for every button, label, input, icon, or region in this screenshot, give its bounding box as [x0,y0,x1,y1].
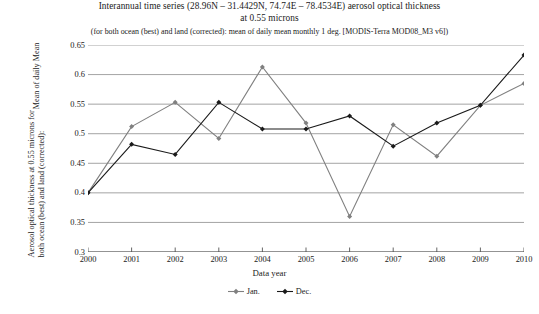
x-axis-tick-label: 2004 [254,255,271,265]
y-axis-title-line-2: both ocean (best) and land (corrected): [37,110,47,257]
chart-subtitle: (for both ocean (best) and land (correct… [0,26,539,37]
x-axis-tick-label: 2005 [298,255,315,265]
chart-title-line-1: Interannual time series (28.96N – 31.442… [0,1,539,13]
x-axis-tick-label: 2003 [210,255,227,265]
legend-diamond [233,289,238,294]
chart-figure: Interannual time series (28.96N – 31.442… [0,0,539,314]
legend-item[interactable]: Dec. [277,287,311,296]
y-axis-title-line-1: Aerosol optical thickness at 0.55 micron… [27,110,37,257]
chart-title-line-2: at 0.55 microns [0,13,539,25]
x-axis-tick-label: 2007 [385,255,402,265]
plot-area [88,45,524,252]
legend-label: Dec. [296,287,311,296]
data-point [522,81,525,86]
x-axis-tick-label: 2009 [472,255,489,265]
legend-diamond [282,289,287,294]
x-axis-title: Data year [0,268,539,278]
legend-label: Jan. [247,287,260,296]
plot-canvas [88,45,524,252]
data-point [347,214,352,219]
data-point [434,121,439,126]
legend-marker-icon [277,287,293,296]
y-axis-tick-label: 0.45 [70,159,85,168]
y-axis-title: Aerosol optical thickness at 0.55 micron… [14,42,60,258]
x-axis-tick-labels: 2000200120022003200420052006200720082009… [60,255,539,269]
legend-marker-icon [228,287,244,296]
y-axis-tick-label: 0.65 [70,41,85,50]
x-axis-tick-label: 2008 [428,255,445,265]
x-axis-tick-label: 2010 [516,255,533,265]
x-axis-tick-label: 2006 [341,255,358,265]
series-line-Jan [88,67,524,217]
y-axis-tick-label: 0.6 [75,70,85,79]
chart-legend: Jan.Dec. [0,287,539,296]
y-axis-title-line-3: Mean of daily Mean [32,43,42,110]
y-axis-tick-labels: 0.30.350.40.450.50.550.60.65 [55,38,85,260]
x-axis-tick-label: 2002 [167,255,184,265]
y-axis-tick-label: 0.35 [70,218,85,227]
x-axis-tick-label: 2000 [80,255,97,265]
y-axis-tick-label: 0.4 [75,188,85,197]
y-axis-tick-label: 0.5 [75,129,85,138]
legend-item[interactable]: Jan. [228,287,260,296]
data-point [260,126,265,131]
x-axis-tick-label: 2001 [123,255,140,265]
chart-title-block: Interannual time series (28.96N – 31.442… [0,1,539,37]
y-axis-tick-label: 0.55 [70,100,85,109]
